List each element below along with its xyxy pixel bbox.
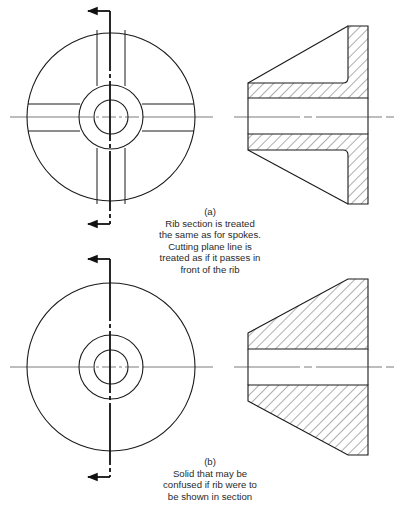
caption-line: the same as for spokes. — [125, 229, 295, 241]
caption-line: Solid that may be — [125, 468, 295, 480]
figure-a-end-view — [10, 11, 213, 224]
caption-b: (b) Solid that may be confused if rib we… — [125, 456, 295, 502]
caption-line: treated as if it passes in — [125, 252, 295, 264]
figure-label: (a) — [125, 206, 295, 218]
caption-line: Cutting plane line is — [125, 241, 295, 253]
figure-label: (b) — [125, 456, 295, 468]
figure-b-end-view — [10, 259, 213, 477]
caption-line: front of the rib — [125, 264, 295, 276]
caption-line: Rib section is treated — [125, 218, 295, 230]
caption-line: confused if rib were to — [125, 479, 295, 491]
figure-a-section-view — [234, 26, 394, 204]
caption-a: (a) Rib section is treated the same as f… — [125, 206, 295, 276]
figure-b-section-view — [234, 279, 394, 455]
caption-line: be shown in section — [125, 491, 295, 503]
